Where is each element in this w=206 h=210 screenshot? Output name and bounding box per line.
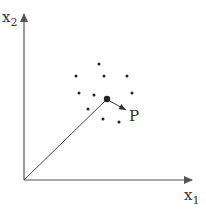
position-vector [24, 101, 105, 180]
sample-points [75, 63, 134, 124]
sample-point [75, 75, 78, 78]
y-axis-label-subscript: 2 [10, 16, 17, 29]
y-axis-label: x2 [2, 8, 17, 29]
vector-diagram: x2 x1 P [0, 0, 206, 210]
sample-point [118, 121, 121, 124]
sample-point [98, 63, 101, 66]
sample-point [131, 92, 134, 95]
sample-point [78, 92, 81, 95]
sample-point [93, 94, 96, 97]
x-axis-label: x1 [184, 186, 199, 207]
sample-point [102, 118, 105, 121]
x-axis-label-subscript: 1 [192, 194, 199, 207]
sample-point [103, 75, 106, 78]
point-p-label: P [129, 107, 139, 125]
sample-point [126, 75, 129, 78]
displacement-arrow [108, 100, 126, 110]
sample-point [87, 108, 90, 111]
